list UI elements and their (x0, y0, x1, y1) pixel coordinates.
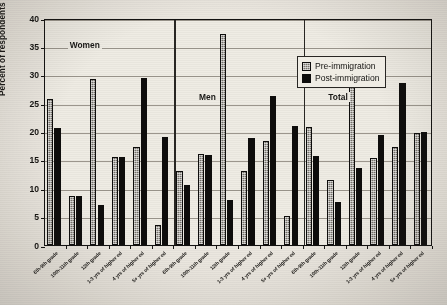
bar-pre-2 (90, 79, 96, 245)
panel-label-total: Total (326, 92, 349, 102)
bar-post-16 (399, 83, 405, 245)
x-tick-mark (173, 246, 174, 249)
bar-post-11 (292, 126, 298, 245)
y-tick-label-25: 25 (13, 99, 39, 109)
y-tick-label-5: 5 (13, 212, 39, 222)
bar-post-5 (162, 137, 168, 245)
y-tick-label-10: 10 (13, 184, 39, 194)
x-tick-mark (432, 246, 433, 249)
bar-post-12 (313, 156, 319, 245)
legend-label-pre: Pre-immigration (315, 61, 376, 71)
bar-post-3 (119, 157, 125, 245)
y-axis-title: Percent of respondents (0, 0, 7, 96)
x-tick-mark (216, 246, 217, 249)
bar-pre-1 (69, 196, 75, 245)
x-tick-mark (303, 246, 304, 249)
bar-pre-3 (112, 157, 118, 245)
bar-pre-0 (47, 99, 53, 245)
bar-pre-9 (241, 171, 247, 245)
bar-series-container (45, 20, 431, 245)
bar-post-6 (184, 185, 190, 245)
x-tick-mark (87, 246, 88, 249)
y-tick-label-30: 30 (13, 70, 39, 80)
bar-pre-12 (306, 127, 312, 245)
bar-pre-11 (284, 216, 290, 246)
x-tick-mark (346, 246, 347, 249)
bar-pre-10 (263, 141, 269, 245)
bar-pre-17 (414, 133, 420, 245)
bar-post-1 (76, 196, 82, 245)
bar-pre-4 (133, 147, 139, 245)
plot-area: WomenMenTotal Pre-immigration Post-immig… (44, 19, 432, 246)
bar-pre-5 (155, 225, 161, 245)
x-tick-mark (260, 246, 261, 249)
bar-post-9 (248, 138, 254, 245)
bar-post-13 (335, 202, 341, 245)
y-tick-mark (41, 20, 45, 21)
bar-pre-6 (176, 171, 182, 245)
bar-pre-16 (392, 147, 398, 245)
y-tick-mark (41, 133, 45, 134)
x-tick-mark (130, 246, 131, 249)
y-tick-mark (41, 161, 45, 162)
bar-post-7 (205, 155, 211, 245)
y-tick-mark (41, 190, 45, 191)
chart-page: Percent of respondents 0510152025303540 … (0, 0, 447, 305)
x-tick-mark (195, 246, 196, 249)
y-tick-mark (41, 76, 45, 77)
x-tick-mark (152, 246, 153, 249)
y-tick-mark (41, 247, 45, 248)
x-tick-mark (238, 246, 239, 249)
y-tick-label-40: 40 (13, 14, 39, 24)
y-tick-mark (41, 48, 45, 49)
panel-label-men: Men (197, 92, 218, 102)
bar-post-14 (356, 168, 362, 245)
x-tick-mark (109, 246, 110, 249)
x-tick-mark (367, 246, 368, 249)
y-tick-label-35: 35 (13, 42, 39, 52)
legend-item-post: Post-immigration (302, 72, 379, 84)
legend-label-post: Post-immigration (315, 73, 379, 83)
y-tick-mark (41, 105, 45, 106)
bar-post-15 (378, 135, 384, 245)
x-tick-mark (281, 246, 282, 249)
bar-pre-8 (220, 34, 226, 245)
bar-post-10 (270, 96, 276, 245)
bar-post-8 (227, 200, 233, 245)
bar-pre-7 (198, 154, 204, 245)
x-tick-mark (410, 246, 411, 249)
x-tick-mark (66, 246, 67, 249)
x-tick-mark (389, 246, 390, 249)
y-tick-mark (41, 218, 45, 219)
bar-pre-13 (327, 180, 333, 245)
bar-post-0 (54, 128, 60, 245)
y-tick-label-15: 15 (13, 155, 39, 165)
bar-pre-15 (370, 158, 376, 245)
chart-legend: Pre-immigration Post-immigration (297, 56, 386, 88)
panel-label-women: Women (68, 40, 102, 50)
y-tick-label-0: 0 (13, 241, 39, 251)
legend-swatch-pre-icon (302, 62, 311, 71)
legend-swatch-post-icon (302, 74, 311, 83)
x-tick-mark (324, 246, 325, 249)
legend-item-pre: Pre-immigration (302, 60, 379, 72)
bar-pre-14 (349, 61, 355, 245)
bar-post-17 (421, 132, 427, 245)
y-tick-label-20: 20 (13, 127, 39, 137)
bar-post-4 (141, 78, 147, 245)
bar-post-2 (98, 205, 104, 245)
